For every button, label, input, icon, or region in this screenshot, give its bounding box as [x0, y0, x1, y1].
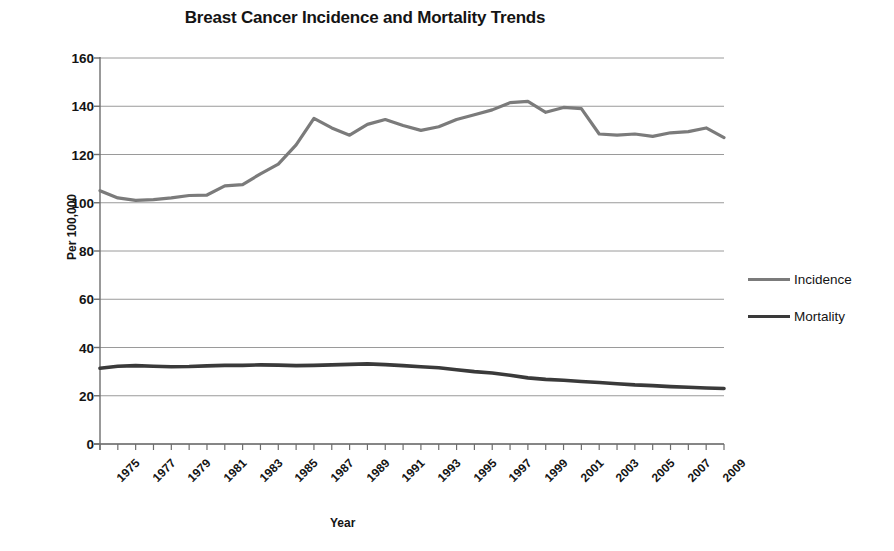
- legend-label: Incidence: [794, 272, 852, 287]
- legend-swatch-icon: [748, 315, 790, 318]
- y-axis-tick-label: 60: [56, 292, 94, 307]
- y-axis-tick-label: 20: [56, 388, 94, 403]
- series-line-incidence: [100, 101, 724, 200]
- legend-item[interactable]: Incidence: [748, 272, 852, 287]
- y-axis-tick-label: 80: [56, 244, 94, 259]
- y-axis-tick-label: 120: [56, 147, 94, 162]
- y-axis-tick-label: 140: [56, 99, 94, 114]
- y-axis-tick-label: 100: [56, 195, 94, 210]
- chart-container: Breast Cancer Incidence and Mortality Tr…: [0, 0, 894, 551]
- legend-swatch-icon: [748, 278, 790, 281]
- y-axis-tick-label: 160: [56, 51, 94, 66]
- series-line-mortality: [100, 364, 724, 389]
- chart-title: Breast Cancer Incidence and Mortality Tr…: [0, 8, 730, 28]
- y-axis-tick-label: 40: [56, 340, 94, 355]
- legend-label: Mortality: [794, 309, 845, 324]
- x-axis-title: Year: [330, 516, 355, 530]
- legend-item[interactable]: Mortality: [748, 309, 852, 324]
- chart-legend: IncidenceMortality: [748, 272, 852, 324]
- y-axis-tick-labels: 020406080100120140160: [52, 0, 94, 551]
- y-axis-tick-label: 0: [56, 437, 94, 452]
